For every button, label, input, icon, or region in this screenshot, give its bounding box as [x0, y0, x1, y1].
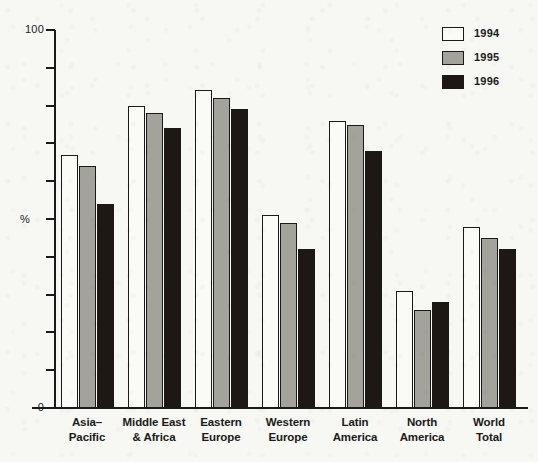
bar[interactable]	[396, 291, 413, 408]
legend-item[interactable]: 1995	[442, 50, 534, 65]
bar[interactable]	[79, 166, 96, 408]
bar[interactable]	[128, 106, 145, 408]
category-label-line: Total	[441, 430, 537, 445]
y-axis-title: %	[20, 214, 30, 225]
chart-legend: 199419951996	[442, 26, 534, 98]
legend-item[interactable]: 1996	[442, 74, 534, 89]
legend-item-label: 1995	[474, 52, 499, 63]
category-label-line: North	[407, 416, 437, 428]
bar[interactable]	[164, 128, 181, 408]
y-axis-tick	[46, 331, 55, 333]
category-label-line: Western	[266, 416, 310, 428]
gray-square-swatch	[442, 51, 464, 65]
bar-group	[195, 30, 249, 408]
legend-item-label: 1996	[474, 76, 499, 87]
y-axis-tick	[46, 142, 55, 144]
bar[interactable]	[432, 302, 449, 408]
bar-group	[128, 30, 182, 408]
bar[interactable]	[213, 98, 230, 408]
bar[interactable]	[499, 249, 516, 408]
grouped-bar-chart: 0100 % Asia–PacificMiddle East& AfricaEa…	[0, 0, 538, 462]
bar-group	[329, 30, 383, 408]
bar[interactable]	[262, 215, 279, 408]
bar[interactable]	[329, 121, 346, 408]
bar[interactable]	[347, 125, 364, 409]
bar[interactable]	[231, 109, 248, 408]
bar[interactable]	[97, 204, 114, 408]
legend-item-label: 1994	[474, 28, 499, 39]
bar[interactable]	[146, 113, 163, 408]
bar[interactable]	[195, 90, 212, 408]
category-label-line: Eastern	[200, 416, 242, 428]
y-axis-tick-label: 100	[6, 24, 44, 35]
x-axis-category-label: WorldTotal	[441, 415, 537, 445]
y-axis-tick	[46, 29, 55, 31]
y-axis-tick	[46, 218, 55, 220]
bar-group	[262, 30, 316, 408]
bar[interactable]	[365, 151, 382, 408]
legend-item[interactable]: 1994	[442, 26, 534, 41]
y-axis-tick	[46, 180, 55, 182]
bar[interactable]	[414, 310, 431, 408]
y-axis-tick	[46, 369, 55, 371]
bar[interactable]	[298, 249, 315, 408]
category-label-line: Asia–	[72, 416, 102, 428]
black-square-swatch	[442, 75, 464, 89]
bar[interactable]	[481, 238, 498, 408]
y-axis-tick	[46, 294, 55, 296]
category-label-line: Latin	[342, 416, 369, 428]
y-axis-tick	[46, 67, 55, 69]
bar[interactable]	[61, 155, 78, 408]
y-axis-tick	[46, 105, 55, 107]
white-square-swatch	[442, 27, 464, 41]
bar[interactable]	[280, 223, 297, 408]
bar-group	[61, 30, 115, 408]
category-label-line: World	[473, 416, 505, 428]
y-axis-tick	[46, 256, 55, 258]
bar[interactable]	[463, 227, 480, 408]
